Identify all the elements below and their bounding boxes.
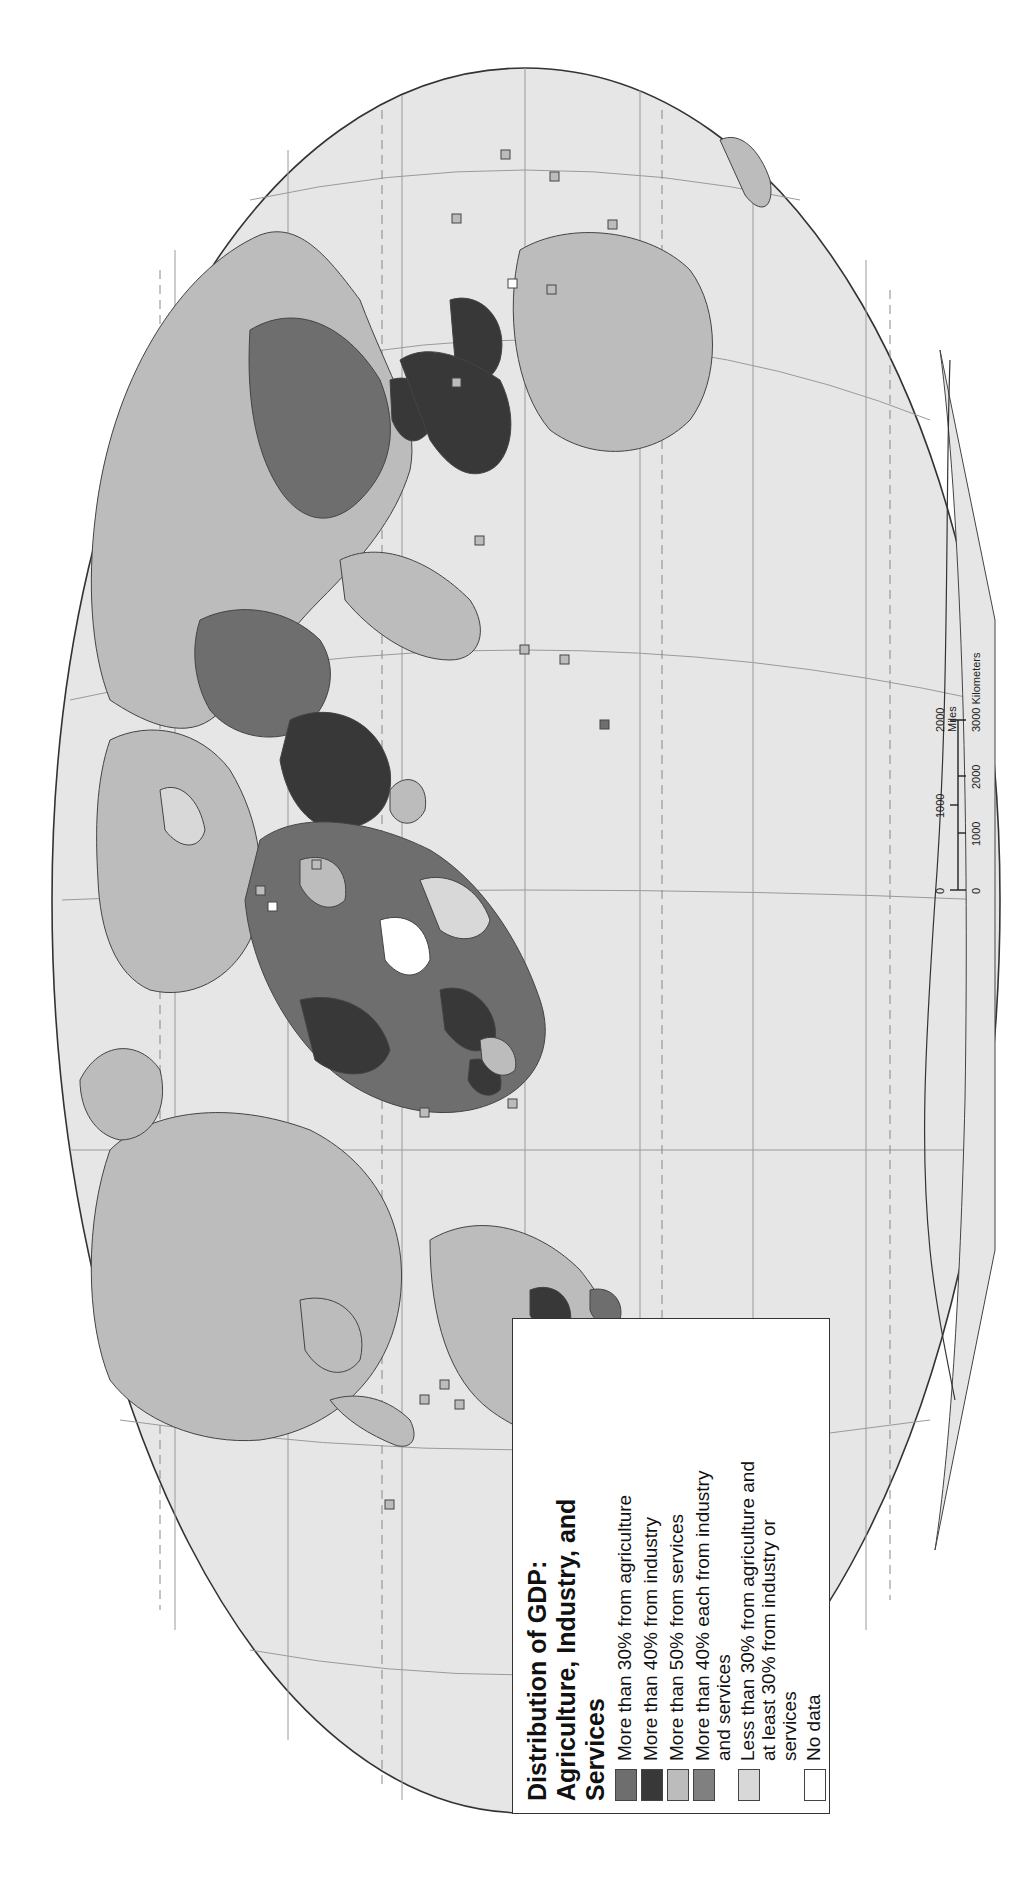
- legend-swatch-no-data: [804, 1769, 826, 1801]
- legend-item-agriculture: More than 30% from agriculture: [614, 1331, 637, 1801]
- legend-label: More than 30% from agriculture: [614, 1495, 635, 1761]
- legend-item-industry-and-services: More than 40% each from industry and ser…: [692, 1331, 734, 1801]
- legend-swatch-mixed: [738, 1769, 760, 1801]
- legend-swatch-industry: [641, 1769, 663, 1801]
- legend-label: Less than 30% from agriculture and at le…: [737, 1461, 800, 1761]
- legend-box: Distribution of GDP: Agriculture, Indust…: [512, 1318, 830, 1814]
- legend-label: More than 50% from services: [666, 1514, 687, 1761]
- scale-miles-tick: 0: [934, 888, 946, 894]
- scale-km-tick: 2000: [970, 765, 982, 789]
- legend-label: More than 40% from industry: [640, 1517, 661, 1761]
- legend-label: No data: [803, 1694, 824, 1761]
- legend-item-no-data: No data: [803, 1331, 826, 1801]
- legend-swatch-agriculture: [615, 1769, 637, 1801]
- legend-swatch-services: [667, 1769, 689, 1801]
- map-canvas: [0, 0, 1012, 1877]
- scale-miles-tick: 2000 Miles: [934, 680, 958, 732]
- scale-km-tick: 1000: [970, 822, 982, 846]
- legend-title: Distribution of GDP: Agriculture, Indust…: [523, 1331, 610, 1801]
- map-legend: Distribution of GDP: Agriculture, Indust…: [512, 1318, 830, 1814]
- legend-swatch-industry-and-services: [693, 1769, 715, 1801]
- scale-km-tick: 0: [970, 888, 982, 894]
- legend-title-line-2: Agriculture, Industry, and: [552, 1331, 581, 1801]
- legend-item-industry: More than 40% from industry: [640, 1331, 663, 1801]
- legend-label: More than 40% each from industry and ser…: [692, 1461, 734, 1761]
- legend-item-mixed: Less than 30% from agriculture and at le…: [737, 1331, 800, 1801]
- scale-miles-tick: 1000: [934, 794, 946, 818]
- world-map: [0, 0, 1012, 1877]
- scale-km-tick: 3000 Kilometers: [970, 653, 982, 733]
- legend-title-line-1: Distribution of GDP:: [523, 1331, 552, 1801]
- legend-title-line-3: Services: [581, 1331, 610, 1801]
- legend-item-services: More than 50% from services: [666, 1331, 689, 1801]
- scale-bar-graphic: [918, 680, 998, 910]
- scale-bar-inner: 0 1000 2000 Miles 0 1000 2000 3000 Kilom…: [918, 680, 998, 910]
- scale-bar: 0 1000 2000 Miles 0 1000 2000 3000 Kilom…: [918, 680, 998, 910]
